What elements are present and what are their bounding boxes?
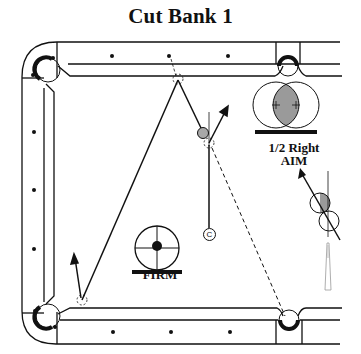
cue-ball-marker: C (203, 228, 216, 241)
aim-label-line2: AIM (254, 154, 334, 167)
cue-ball-deflection-arrow (209, 106, 228, 143)
aim-diagram (253, 82, 319, 134)
object-ball-path (82, 80, 201, 300)
aim-label: 1/2 Right AIM (254, 141, 334, 167)
corner-pocket-bottom-left (34, 304, 60, 329)
side-pocket-top (278, 56, 298, 76)
diamond-reference-line (171, 59, 176, 76)
cue-stick-diagram (298, 168, 340, 290)
corner-pocket-top-left (34, 57, 60, 82)
pool-table-diagram (0, 0, 361, 354)
diamonds (31, 54, 232, 334)
speed-label: FIRM (128, 268, 192, 281)
deflection-arrow-bottom (71, 254, 81, 298)
object-ball (198, 128, 209, 139)
dashed-cue-ball-route (212, 148, 285, 316)
side-pocket-bottom (279, 310, 299, 330)
